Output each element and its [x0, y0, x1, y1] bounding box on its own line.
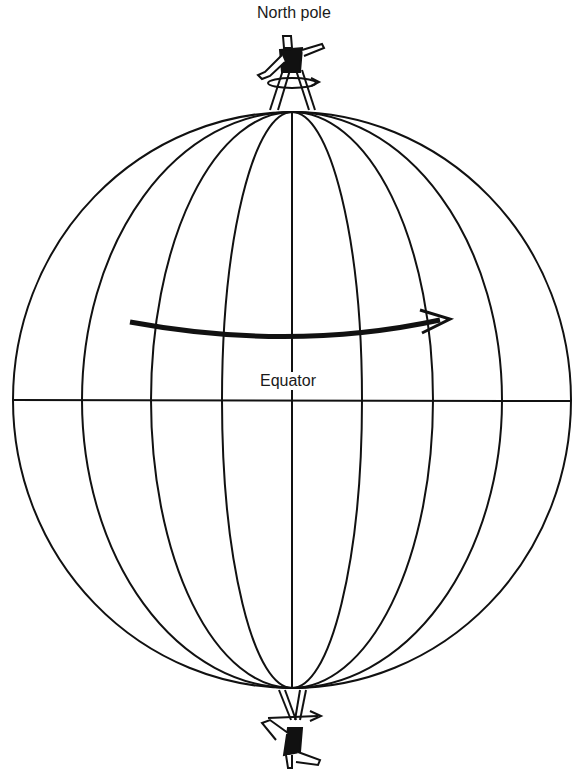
- north-pole-figure-icon: [258, 36, 324, 110]
- equator-label: Equator: [258, 372, 318, 390]
- globe-svg: [0, 0, 582, 783]
- globe-diagram: North pole Equator: [0, 0, 582, 783]
- south-pole-figure-icon: [262, 690, 321, 768]
- rotation-arrow: [130, 310, 450, 337]
- equator-line: [13, 400, 571, 401]
- north-pole-label: North pole: [257, 4, 331, 22]
